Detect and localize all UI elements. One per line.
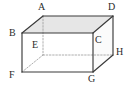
- vertex-label-D: D: [108, 2, 115, 12]
- vertex-label-H: H: [116, 47, 123, 57]
- cuboid-figure: ADBCEHFG: [0, 0, 132, 87]
- vertex-label-E: E: [32, 40, 38, 50]
- cuboid-drawing: [0, 0, 132, 87]
- vertex-label-A: A: [38, 2, 45, 12]
- vertex-label-C: C: [95, 35, 102, 45]
- vertex-label-B: B: [9, 28, 16, 38]
- vertex-label-F: F: [9, 70, 15, 80]
- vertex-label-G: G: [88, 74, 95, 84]
